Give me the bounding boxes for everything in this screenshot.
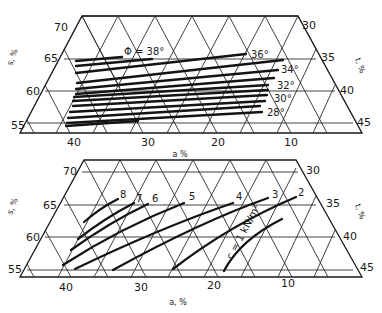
top-right-tick-40: 40 <box>340 84 354 97</box>
top-left-tick-55: 55 <box>11 119 25 132</box>
bottom-bottom-tick-20: 20 <box>207 279 221 292</box>
top-bottom-axis-label: a % <box>172 150 187 159</box>
bottom-c-label-2: 2 <box>298 187 304 198</box>
bottom-left-tick-55: 55 <box>8 263 22 276</box>
bottom-right-tick-45: 45 <box>360 261 374 274</box>
bottom-bottom-tick-10: 10 <box>281 277 295 290</box>
bottom-left-tick-70: 70 <box>63 165 77 178</box>
bottom-left-tick-65: 65 <box>43 199 57 212</box>
bottom-c-label-4: 4 <box>236 191 242 202</box>
ternary-figure: 70 65 60 55 s, % 30 35 40 45 t, % 40 30 … <box>0 0 382 313</box>
bottom-bottom-axis-label: a, % <box>169 298 187 307</box>
top-left-tick-60: 60 <box>26 85 40 98</box>
top-phi-label-32: 32° <box>277 80 295 91</box>
top-right-tick-45: 45 <box>357 116 371 129</box>
bottom-bottom-tick-30: 30 <box>134 281 148 294</box>
bottom-right-tick-30: 30 <box>306 164 320 177</box>
top-bottom-tick-40: 40 <box>67 136 81 149</box>
bottom-right-tick-40: 40 <box>343 230 357 243</box>
bottom-c-label-7: 7 <box>136 193 142 204</box>
top-phi-contours <box>66 54 283 126</box>
top-phi-label-28: 28° <box>267 107 285 118</box>
top-bottom-tick-30: 30 <box>141 136 155 149</box>
top-ternary-diagram: 70 65 60 55 s, % 30 35 40 45 t, % 40 30 … <box>5 16 371 159</box>
top-right-tick-35: 35 <box>321 51 335 64</box>
top-bottom-tick-10: 10 <box>284 136 298 149</box>
top-bottom-tick-20: 20 <box>211 136 225 149</box>
top-left-axis-label: s, % <box>5 47 19 66</box>
bottom-ternary-diagram: 70 65 60 55 s, % 30 35 40 45 t, % 40 30 … <box>5 160 374 307</box>
bottom-right-tick-35: 35 <box>326 197 340 210</box>
bottom-c-label-6: 6 <box>152 193 158 204</box>
top-right-tick-30: 30 <box>302 19 316 32</box>
bottom-c-label-3: 3 <box>272 189 278 200</box>
bottom-left-tick-60: 60 <box>26 231 40 244</box>
bottom-c-label-8: 8 <box>120 189 126 200</box>
top-right-axis-label: t, % <box>353 57 367 75</box>
bottom-right-axis-label: t, % <box>353 203 367 221</box>
bottom-left-axis-label: s, % <box>5 196 19 215</box>
bottom-diagonal-gridlines-up <box>58 160 335 277</box>
top-phi-label-36: 36° <box>251 49 269 60</box>
bottom-c-label-5: 5 <box>189 191 195 202</box>
top-phi-label-38: Φ = 38° <box>124 46 164 57</box>
top-left-tick-70: 70 <box>54 21 68 34</box>
top-phi-label-34: 34° <box>281 64 299 75</box>
top-phi-label-30: 30° <box>274 93 292 104</box>
bottom-bottom-tick-40: 40 <box>59 281 73 294</box>
top-left-tick-65: 65 <box>44 52 58 65</box>
